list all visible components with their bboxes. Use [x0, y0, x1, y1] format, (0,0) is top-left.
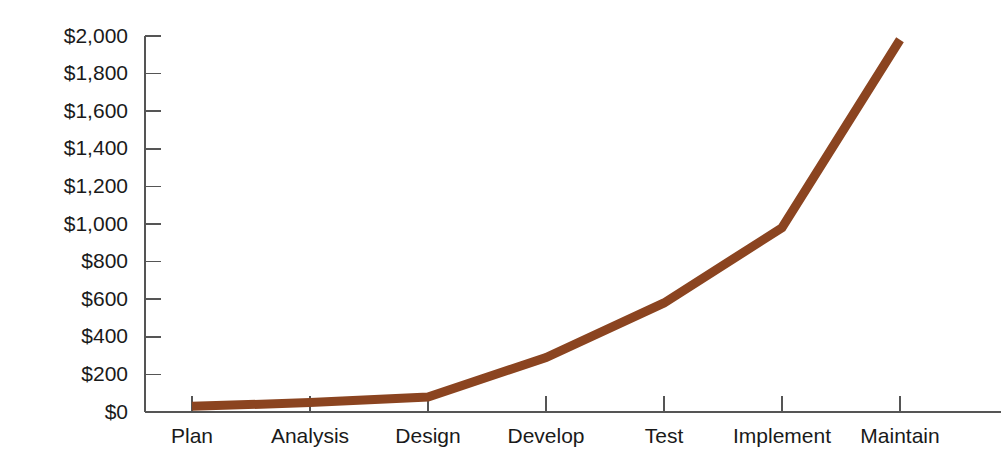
data-line-cost	[192, 40, 900, 407]
x-tick-label: Implement	[733, 424, 831, 447]
y-tick-label: $200	[81, 362, 128, 385]
y-tick-label: $2,000	[64, 24, 128, 47]
x-tick-label: Maintain	[860, 424, 939, 447]
x-tick-label: Design	[395, 424, 460, 447]
y-tick-label: $800	[81, 249, 128, 272]
y-tick-label: $0	[105, 400, 128, 423]
y-tick-label: $400	[81, 324, 128, 347]
y-tick-label: $1,200	[64, 174, 128, 197]
y-tick-label: $1,400	[64, 136, 128, 159]
y-tick-label: $1,000	[64, 212, 128, 235]
x-tick-label: Test	[645, 424, 684, 447]
y-tick-label: $1,600	[64, 99, 128, 122]
data-series-group	[192, 40, 900, 407]
line-chart: $0$200$400$600$800$1,000$1,200$1,400$1,6…	[0, 0, 1001, 476]
x-tick-label: Analysis	[271, 424, 349, 447]
y-axis: $0$200$400$600$800$1,000$1,200$1,400$1,6…	[64, 24, 161, 423]
x-tick-label: Plan	[171, 424, 213, 447]
x-tick-label: Develop	[507, 424, 584, 447]
y-tick-label: $1,800	[64, 61, 128, 84]
chart-canvas: $0$200$400$600$800$1,000$1,200$1,400$1,6…	[0, 0, 1001, 476]
y-tick-label: $600	[81, 287, 128, 310]
